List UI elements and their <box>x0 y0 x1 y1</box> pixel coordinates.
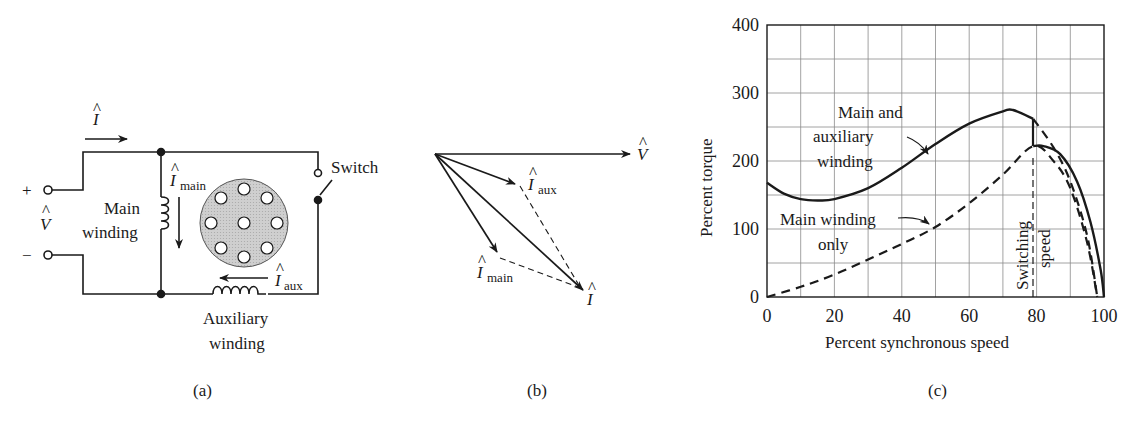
minus-sign: − <box>22 246 32 265</box>
positive-terminal-icon <box>44 186 52 194</box>
aux-winding-coil-icon <box>213 287 266 295</box>
hat-mark: ^ <box>93 99 101 118</box>
y-tick-label: 0 <box>750 287 759 307</box>
plus-sign: + <box>22 181 32 200</box>
panel-a-labels: I ^ + − V ^ I ^ main Main winding I ^ au… <box>22 99 379 400</box>
x-tick-label: 80 <box>1028 306 1046 326</box>
aux-winding-label-1: Auxiliary <box>203 309 269 328</box>
switch-lever-icon <box>320 180 332 195</box>
series-line-0 <box>767 109 1033 200</box>
x-tick-label: 0 <box>763 306 772 326</box>
annotation-arrow-icon <box>898 218 929 224</box>
caption-b: (b) <box>527 381 547 400</box>
x-tick-label: 60 <box>960 306 978 326</box>
aux-winding-label-2: winding <box>209 334 265 353</box>
parallelogram-dash-1 <box>520 186 580 287</box>
y-tick-label: 300 <box>732 83 759 103</box>
hat-mark: ^ <box>588 278 596 297</box>
annotation-main-only-1: Main winding <box>780 210 876 229</box>
panel-c-chart: 0204060801000100200300400 Main and auxil… <box>697 15 1118 400</box>
panel-a-circuit <box>44 139 332 298</box>
negative-terminal-icon <box>44 251 52 259</box>
caption-c: (c) <box>928 381 947 400</box>
y-tick-label: 200 <box>732 151 759 171</box>
y-tick-label: 100 <box>732 219 759 239</box>
aux-current-subscript: aux <box>284 278 303 293</box>
y-axis-label: Percent torque <box>697 138 716 237</box>
annotation-main-aux-3: winding <box>817 152 873 171</box>
switch-contact-icon <box>315 170 322 177</box>
x-tick-label: 40 <box>893 306 911 326</box>
caption-a: (a) <box>193 381 212 400</box>
bottom-wire <box>52 255 213 294</box>
panel-b-labels: V ^ I ^ aux I ^ main I ^ (b) <box>476 133 650 400</box>
main-current-subscript: main <box>180 178 206 193</box>
hat-mark: ^ <box>529 163 537 182</box>
x-axis-label: Percent synchronous speed <box>825 333 1010 352</box>
hat-mark: ^ <box>478 251 486 270</box>
phasor-i-aux-sub: aux <box>538 182 557 197</box>
annotation-switching: Switching <box>1013 221 1032 290</box>
annotation-main-only-2: only <box>818 235 849 254</box>
hat-mark: ^ <box>171 159 179 178</box>
rotor-bars-icon <box>205 183 283 263</box>
x-tick-label: 100 <box>1091 306 1118 326</box>
annotation-main-aux-1: Main and <box>838 103 903 122</box>
switch-pivot-icon <box>315 197 322 204</box>
junction-top-icon <box>158 149 165 156</box>
main-winding-coil-icon <box>161 197 169 229</box>
switch-label: Switch <box>331 158 379 177</box>
main-winding-label-1: Main <box>104 199 140 218</box>
phasor-i-main-sub: main <box>487 270 513 285</box>
annotation-speed: speed <box>1035 229 1054 268</box>
y-tick-label: 400 <box>732 15 759 35</box>
x-tick-label: 20 <box>825 306 843 326</box>
hat-mark: ^ <box>42 201 50 220</box>
hat-mark: ^ <box>639 133 647 152</box>
hat-mark: ^ <box>276 259 284 278</box>
figure-canvas: I ^ + − V ^ I ^ main Main winding I ^ au… <box>0 0 1144 424</box>
junction-bottom-icon <box>158 291 165 298</box>
phasor-i-aux-icon <box>435 154 515 184</box>
main-winding-label-2: winding <box>82 223 138 242</box>
annotation-main-aux-2: auxiliary <box>813 127 874 146</box>
